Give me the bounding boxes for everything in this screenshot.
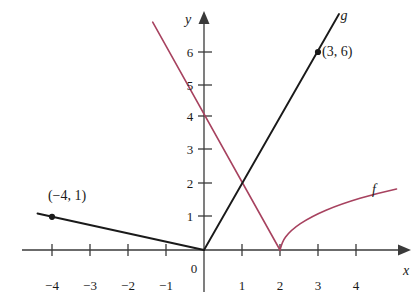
y-tick-marks — [198, 52, 212, 216]
x-tick-label-4: 4 — [353, 279, 360, 292]
marked-point-neg4-1 — [49, 214, 55, 220]
curve-f-sqrt-branch — [280, 189, 397, 250]
graph-figure: −4 −3 −2 −1 1 2 3 4 1 2 3 4 5 6 0 x y g … — [0, 0, 418, 305]
x-tick-label-3: 3 — [315, 279, 322, 292]
y-tick-label-1: 1 — [187, 210, 194, 223]
y-tick-label-3: 3 — [187, 143, 194, 156]
x-tick-label--2: −2 — [121, 279, 135, 292]
x-axis-arrow-icon — [398, 245, 411, 256]
curve-g-left-segment — [38, 214, 205, 251]
x-tick-label--4: −4 — [45, 279, 59, 292]
x-tick-label-2: 2 — [277, 279, 284, 292]
y-tick-label-2: 2 — [187, 177, 194, 190]
curve-f-line-branch — [153, 22, 280, 250]
y-tick-label-4: 4 — [187, 110, 194, 123]
y-axis-arrow-icon — [199, 11, 210, 24]
y-tick-label-5: 5 — [187, 79, 194, 92]
x-axis-label: x — [403, 264, 409, 278]
marked-point-3-6 — [315, 49, 321, 55]
x-tick-label--1: −1 — [159, 279, 173, 292]
x-tick-label--3: −3 — [83, 279, 97, 292]
y-tick-label-6: 6 — [187, 46, 194, 59]
x-tick-label-1: 1 — [239, 279, 246, 292]
plot-canvas — [0, 0, 418, 305]
origin-label: 0 — [191, 262, 198, 275]
curve-g-label: g — [341, 9, 348, 23]
axes-group — [22, 11, 411, 292]
curve-f-label: f — [372, 183, 376, 197]
point-label-3-6: (3, 6) — [322, 45, 352, 59]
point-label-neg4-1: (−4, 1) — [48, 189, 86, 203]
y-axis-label: y — [185, 13, 191, 27]
